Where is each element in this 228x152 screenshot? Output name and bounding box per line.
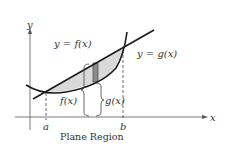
y-axis-label: y bbox=[26, 19, 33, 30]
x-axis-arrow-icon bbox=[202, 115, 208, 119]
representative-strip bbox=[93, 63, 98, 82]
plane-region-diagram: y x y = f(x) y = g(x) f(x) g(x) a b Plan… bbox=[0, 0, 228, 152]
line-f bbox=[33, 30, 154, 99]
curve-g-label: y = g(x) bbox=[136, 48, 177, 59]
bound-a-label: a bbox=[43, 121, 49, 132]
line-f-label: y = f(x) bbox=[53, 38, 92, 49]
caption: Plane Region bbox=[60, 131, 124, 142]
brace-g-icon bbox=[96, 83, 104, 116]
x-axis-label: x bbox=[210, 112, 216, 123]
brace-f-label: f(x) bbox=[59, 95, 77, 106]
brace-g-label: g(x) bbox=[105, 95, 125, 106]
